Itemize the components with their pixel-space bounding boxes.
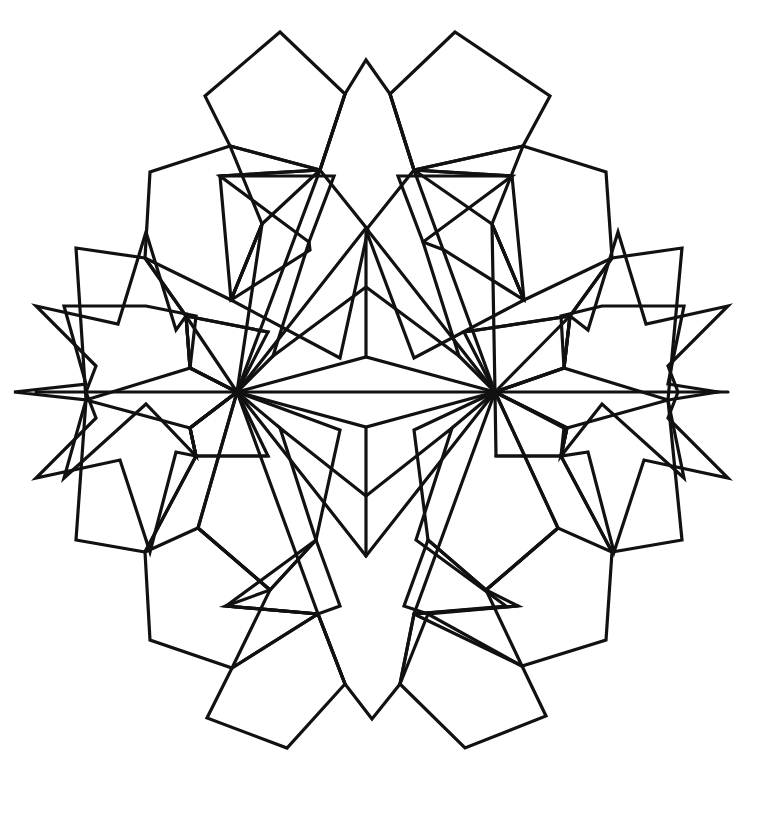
artboard bbox=[0, 0, 763, 813]
geometric-star-mandala bbox=[0, 0, 763, 813]
